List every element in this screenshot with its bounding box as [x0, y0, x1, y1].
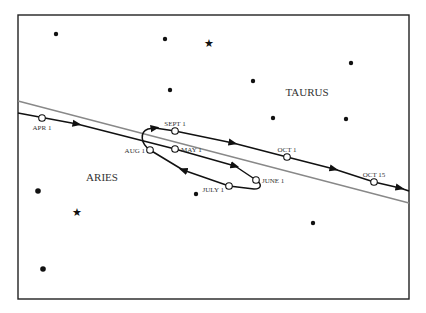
star-dot	[163, 37, 167, 41]
date-marker-circle	[172, 128, 179, 135]
star-dot	[194, 192, 198, 196]
date-label: AUG 1	[125, 147, 146, 155]
star-dot	[40, 266, 46, 272]
date-label: JUNE 1	[262, 177, 285, 185]
star-dot	[271, 116, 275, 120]
constellation-label-aries: ARIES	[86, 171, 118, 183]
star-icon: ★	[72, 206, 82, 219]
constellation-label-taurus: TAURUS	[285, 86, 328, 98]
date-label: MAY 1	[181, 146, 202, 154]
star-dot	[344, 117, 348, 121]
date-marker-circle	[39, 115, 46, 122]
date-marker-circle	[226, 183, 233, 190]
date-label: OCT 1	[277, 146, 297, 154]
star-dot	[54, 32, 58, 36]
star-dot	[251, 79, 255, 83]
star-dot	[35, 188, 41, 194]
date-marker-circle	[253, 177, 260, 184]
date-marker-circle	[284, 154, 291, 161]
constellation-labels: TAURUSARIES	[86, 86, 328, 183]
star-dot	[349, 61, 353, 65]
date-label: APR 1	[33, 124, 52, 132]
diagram-frame	[18, 15, 409, 299]
planet-retrograde-diagram: APR 1MAY 1JUNE 1JULY 1AUG 1SEPT 1OCT 1OC…	[0, 0, 426, 313]
date-marker-circle	[172, 146, 179, 153]
date-label: SEPT 1	[164, 120, 186, 128]
date-marker-circle	[147, 147, 154, 154]
date-label: JULY 1	[203, 186, 225, 194]
star-icon: ★	[204, 37, 214, 50]
date-marker-circle	[371, 179, 378, 186]
date-label: OCT 15	[363, 171, 386, 179]
star-dot	[168, 88, 172, 92]
star-dot	[311, 221, 315, 225]
